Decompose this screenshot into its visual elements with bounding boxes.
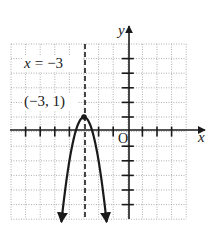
x-axis-label: x <box>197 129 205 145</box>
y-axis-label: y <box>116 22 125 38</box>
vertex-point <box>81 114 87 120</box>
axis-ticks <box>26 59 172 205</box>
vertex-label: (−3, 1) <box>24 93 65 110</box>
asymptote-label: x=−3 <box>23 55 63 71</box>
origin-label: O <box>118 131 128 146</box>
parabola-graph: x=−3 (−3, 1) y x O <box>0 0 219 237</box>
